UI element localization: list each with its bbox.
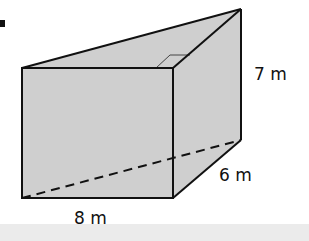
height-label: 7 m <box>254 66 287 83</box>
triangular-prism-figure <box>0 0 309 241</box>
width-label: 8 m <box>74 210 107 227</box>
depth-label: 6 m <box>219 167 252 184</box>
bullet-marker <box>0 20 5 27</box>
